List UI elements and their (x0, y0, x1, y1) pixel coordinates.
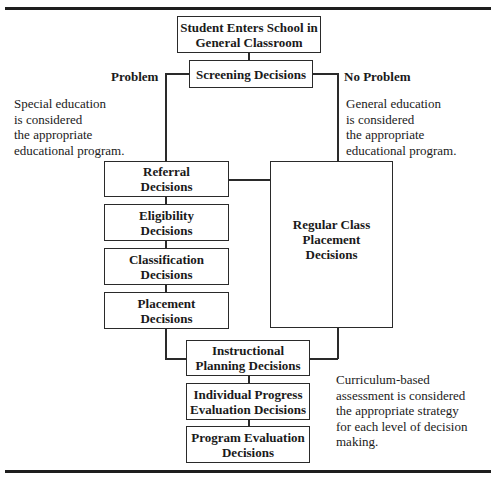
node-regular-line1: Regular Class (293, 217, 370, 232)
note-right-line1: General education (346, 96, 441, 111)
node-screening-label: Screening Decisions (196, 67, 306, 82)
bottom-rule (5, 470, 491, 473)
note-right-line2: is considered (346, 112, 414, 127)
node-start: Student Enters School inGeneral Classroo… (177, 16, 321, 53)
node-eligibility-line2: Decisions (141, 223, 193, 238)
node-instructional: InstructionalPlanning Decisions (186, 340, 310, 376)
connector-regular-instructional (309, 358, 338, 360)
note-bottom-line2: assessment is considered (336, 388, 465, 403)
node-referral-line1: Referral (143, 164, 190, 179)
note-special-education: Special education is considered the appr… (14, 96, 124, 158)
note-bottom-line1: Curriculum-based (336, 372, 430, 387)
node-eligibility-line1: Eligibility (139, 208, 194, 223)
node-progress-line2: Evaluation Decisions (190, 402, 306, 417)
branch-label-problem: Problem (111, 69, 158, 85)
node-program-line1: Program Evaluation (191, 430, 305, 445)
note-bottom-line3: the appropriate strategy (336, 403, 459, 418)
note-right-line3: the appropriate (346, 127, 424, 142)
note-right-line4: educational program. (346, 143, 456, 158)
connector-start-screening (248, 52, 250, 60)
connector-referral-regular (228, 179, 270, 181)
connector-instructional-progress (248, 375, 250, 383)
node-placement-line1: Placement (138, 296, 196, 311)
note-curriculum-based: Curriculum-based assessment is considere… (336, 372, 467, 450)
node-start-line2: General Classroom (196, 35, 303, 50)
node-regular-line2: Placement (303, 232, 361, 247)
connector-eligibility-classification (165, 240, 167, 248)
node-progress-line1: Individual Progress (194, 387, 303, 402)
connector-screening-right (312, 73, 338, 75)
note-left-line1: Special education (14, 96, 106, 111)
connector-screening-left (165, 73, 189, 75)
node-program-line2: Decisions (222, 445, 274, 460)
connector-classification-placement (165, 284, 167, 292)
node-instructional-line1: Instructional (212, 343, 284, 358)
note-bottom-line5: making. (336, 434, 378, 449)
node-referral: ReferralDecisions (104, 161, 229, 197)
note-bottom-line4: for each level of decision (336, 419, 467, 434)
node-screening: Screening Decisions (189, 60, 313, 88)
node-classification-line1: Classification (129, 252, 204, 267)
node-regular: Regular ClassPlacementDecisions (270, 161, 393, 328)
node-start-line1: Student Enters School in (180, 20, 318, 35)
connector-placement-instructional (165, 358, 186, 360)
top-rule (5, 7, 491, 10)
connector-regular-down (337, 327, 339, 359)
note-general-education: General education is considered the appr… (346, 96, 456, 158)
node-instructional-line2: Planning Decisions (195, 358, 300, 373)
node-classification: ClassificationDecisions (104, 248, 229, 285)
connector-placement-down (165, 328, 167, 359)
connector-left-trunk (165, 73, 167, 161)
node-program: Program EvaluationDecisions (186, 426, 310, 463)
node-placement: PlacementDecisions (104, 292, 229, 329)
note-left-line2: is considered (14, 112, 82, 127)
connector-right-trunk (337, 73, 339, 161)
node-classification-line2: Decisions (141, 267, 193, 282)
branch-label-no-problem: No Problem (344, 69, 411, 85)
node-eligibility: EligibilityDecisions (104, 204, 229, 241)
node-referral-line2: Decisions (141, 179, 193, 194)
note-left-line4: educational program. (14, 143, 124, 158)
connector-referral-eligibility (165, 196, 167, 204)
note-left-line3: the appropriate (14, 127, 92, 142)
node-placement-line2: Decisions (140, 311, 192, 326)
node-regular-line3: Decisions (306, 247, 358, 262)
node-progress: Individual ProgressEvaluation Decisions (186, 383, 310, 420)
